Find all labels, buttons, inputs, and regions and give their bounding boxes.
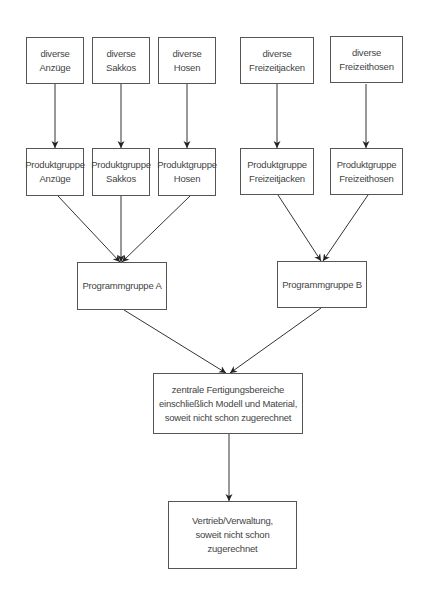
box-label: diverse Freizeitjacken (249, 47, 305, 75)
box-label: Produktgruppe Freizeithosen (337, 158, 397, 186)
box-diverse-hosen: diverse Hosen (158, 37, 216, 84)
box-label: Programmgruppe A (82, 279, 161, 293)
box-label: diverse Anzüge (39, 47, 70, 75)
arrow-pg-anzuege-to-a (58, 196, 120, 262)
box-zentrale-fertigungsbereiche: zentrale Fertigungsbereiche einschließli… (153, 373, 303, 434)
box-label: Produktgruppe Sakkos (91, 158, 151, 186)
arrow-pg-freizeitjacken-to-b (278, 195, 321, 261)
box-produktgruppe-freizeitjacken: Produktgruppe Freizeitjacken (240, 148, 314, 195)
box-diverse-freizeitjacken: diverse Freizeitjacken (240, 37, 314, 84)
box-produktgruppe-freizeithosen: Produktgruppe Freizeithosen (330, 148, 403, 195)
box-produktgruppe-sakkos: Produktgruppe Sakkos (92, 148, 150, 196)
box-label: Produktgruppe Anzüge (25, 158, 85, 186)
box-diverse-sakkos: diverse Sakkos (92, 37, 150, 84)
box-label: Vertrieb/Verwaltung, soweit nicht schon … (192, 514, 273, 556)
box-label: diverse Hosen (172, 47, 201, 75)
box-diverse-freizeithosen: diverse Freizeithosen (330, 36, 403, 83)
box-vertrieb-verwaltung: Vertrieb/Verwaltung, soweit nicht schon … (168, 501, 297, 569)
box-produktgruppe-hosen: Produktgruppe Hosen (158, 148, 216, 196)
box-label: zentrale Fertigungsbereiche einschließli… (159, 383, 297, 425)
arrow-prog-a-to-zentral (124, 310, 226, 373)
arrow-pg-freizeithosen-to-b (323, 195, 368, 261)
arrow-prog-b-to-zentral (230, 308, 321, 373)
box-produktgruppe-anzuege: Produktgruppe Anzüge (26, 148, 84, 196)
box-label: diverse Sakkos (106, 47, 136, 75)
box-diverse-anzuege: diverse Anzüge (26, 37, 84, 84)
box-label: Programmgruppe B (282, 278, 362, 292)
box-programmgruppe-a: Programmgruppe A (77, 262, 167, 310)
box-label: diverse Freizeithosen (339, 46, 393, 74)
arrow-pg-hosen-to-a (122, 196, 190, 262)
box-label: Produktgruppe Hosen (157, 158, 217, 186)
box-programmgruppe-b: Programmgruppe B (277, 261, 367, 308)
box-label: Produktgruppe Freizeitjacken (247, 158, 307, 186)
